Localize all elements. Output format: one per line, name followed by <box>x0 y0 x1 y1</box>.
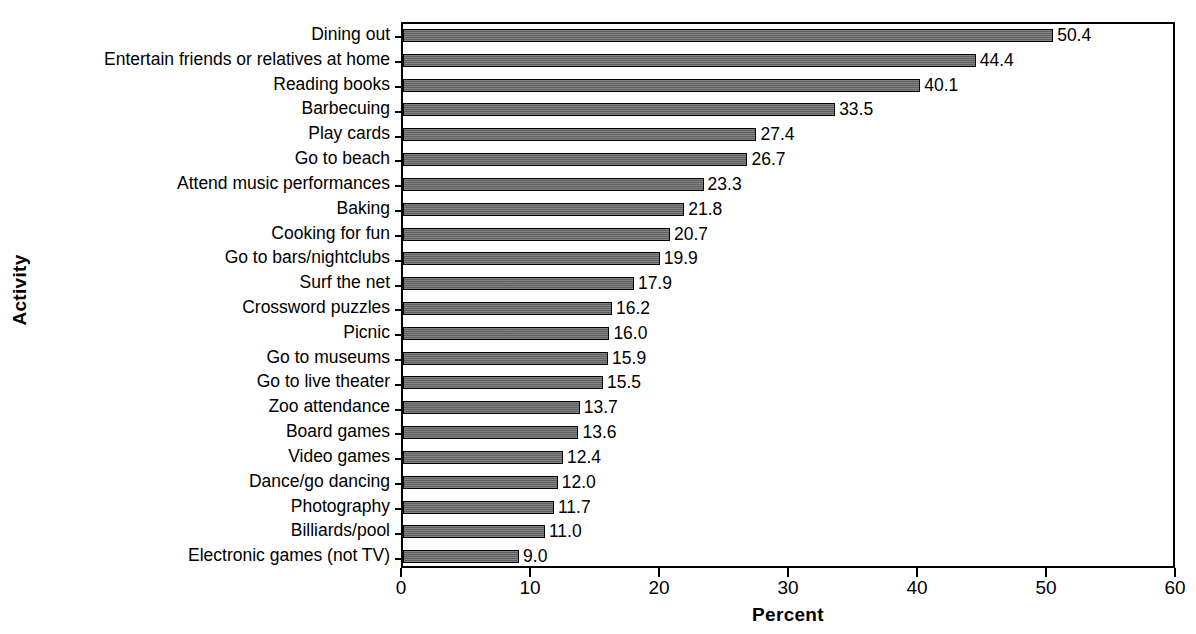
bar-value-label: 13.6 <box>582 423 616 442</box>
bar-row: 13.7 <box>403 396 1173 421</box>
category-axis-labels: Dining outEntertain friends or relatives… <box>40 22 395 568</box>
bar <box>403 252 660 265</box>
category-tick-mark <box>395 384 403 386</box>
plot-area: 50.444.440.133.527.426.723.321.820.719.9… <box>401 22 1175 568</box>
category-label: Crossword puzzles <box>242 295 390 320</box>
bar-value-label: 12.0 <box>562 473 596 492</box>
category-label: Dining out <box>311 22 390 47</box>
x-axis-tick-label: 50 <box>1035 576 1056 600</box>
category-tick-mark <box>395 210 403 212</box>
bar-row: 33.5 <box>403 98 1173 123</box>
bar-value-label: 26.7 <box>751 150 785 169</box>
bar-row: 11.7 <box>403 496 1173 521</box>
bar <box>403 203 684 216</box>
bar-row: 15.5 <box>403 371 1173 396</box>
bar <box>403 153 747 166</box>
bar-row: 16.2 <box>403 297 1173 322</box>
bar-row: 20.7 <box>403 223 1173 248</box>
bar <box>403 401 580 414</box>
category-label: Board games <box>286 419 390 444</box>
bar-row: 15.9 <box>403 347 1173 372</box>
category-tick-mark <box>395 433 403 435</box>
category-tick-mark <box>395 533 403 535</box>
bar-row: 40.1 <box>403 74 1173 99</box>
bar <box>403 103 835 116</box>
y-axis-title: Activity <box>0 0 40 580</box>
x-axis-tick-label: 60 <box>1164 576 1185 600</box>
category-tick-mark <box>395 86 403 88</box>
category-tick-mark <box>395 458 403 460</box>
category-tick-mark <box>395 160 403 162</box>
plot-inner: 50.444.440.133.527.426.723.321.820.719.9… <box>403 24 1173 566</box>
bar-row: 21.8 <box>403 198 1173 223</box>
bar-row: 23.3 <box>403 173 1173 198</box>
bar <box>403 476 558 489</box>
category-tick-mark <box>395 309 403 311</box>
category-label: Picnic <box>343 320 390 345</box>
bar <box>403 128 756 141</box>
x-axis-title: Percent <box>401 604 1175 626</box>
bar-value-label: 21.8 <box>688 200 722 219</box>
x-axis-tick-label: 30 <box>777 576 798 600</box>
bar-row: 26.7 <box>403 148 1173 173</box>
bar-row: 27.4 <box>403 123 1173 148</box>
bar <box>403 352 608 365</box>
bar-row: 13.6 <box>403 421 1173 446</box>
bar-chart-figure: Activity Dining outEntertain friends or … <box>0 0 1196 634</box>
x-axis-tick-label: 10 <box>519 576 540 600</box>
x-axis-tick-label: 40 <box>906 576 927 600</box>
bar <box>403 178 704 191</box>
bar-value-label: 12.4 <box>567 448 601 467</box>
category-label: Reading books <box>273 72 390 97</box>
category-label: Attend music performances <box>177 171 390 196</box>
category-label: Go to beach <box>295 146 390 171</box>
bar-value-label: 44.4 <box>980 51 1014 70</box>
bar-row: 12.4 <box>403 446 1173 471</box>
category-tick-mark <box>395 185 403 187</box>
category-tick-mark <box>395 483 403 485</box>
category-label: Zoo attendance <box>268 394 390 419</box>
bar-row: 12.0 <box>403 471 1173 496</box>
category-tick-mark <box>395 409 403 411</box>
category-label: Surf the net <box>300 270 390 295</box>
bar-value-label: 11.7 <box>558 498 591 517</box>
category-label: Go to museums <box>266 345 390 370</box>
category-tick-mark <box>395 359 403 361</box>
category-label: Play cards <box>308 121 390 146</box>
bar <box>403 426 578 439</box>
bar-value-label: 9.0 <box>523 547 547 566</box>
category-label: Billiards/pool <box>291 518 390 543</box>
category-label: Cooking for fun <box>271 221 390 246</box>
bar-value-label: 16.2 <box>616 299 650 318</box>
category-tick-mark <box>395 285 403 287</box>
x-axis-tick-label: 20 <box>648 576 669 600</box>
category-tick-mark <box>395 36 403 38</box>
category-tick-mark <box>395 334 403 336</box>
bar-value-label: 16.0 <box>613 324 647 343</box>
category-tick-mark <box>395 508 403 510</box>
bar <box>403 302 612 315</box>
bar-value-label: 15.9 <box>612 349 646 368</box>
bar <box>403 550 519 563</box>
bar-row: 9.0 <box>403 545 1173 570</box>
category-tick-mark <box>395 558 403 560</box>
category-label: Go to bars/nightclubs <box>225 245 390 270</box>
category-tick-mark <box>395 136 403 138</box>
category-tick-mark <box>395 61 403 63</box>
bar-value-label: 50.4 <box>1057 26 1091 45</box>
category-label: Barbecuing <box>301 96 390 121</box>
bar-value-label: 20.7 <box>674 225 708 244</box>
category-label: Dance/go dancing <box>249 469 390 494</box>
bar <box>403 228 670 241</box>
bar-value-label: 11.0 <box>549 522 582 541</box>
bar-row: 11.0 <box>403 520 1173 545</box>
bar <box>403 451 563 464</box>
category-label: Video games <box>288 444 390 469</box>
category-tick-mark <box>395 260 403 262</box>
category-tick-mark <box>395 235 403 237</box>
bar <box>403 277 634 290</box>
bar <box>403 525 545 538</box>
category-label: Baking <box>336 196 390 221</box>
bar <box>403 327 609 340</box>
bar-value-label: 23.3 <box>708 175 742 194</box>
